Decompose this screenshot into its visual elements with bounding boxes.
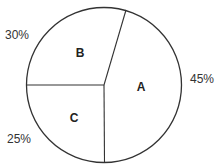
pct-label-a: 45%	[190, 72, 214, 86]
slice-label-c: C	[70, 111, 79, 125]
pct-label-b: 30%	[5, 28, 29, 42]
slice-label-a: A	[137, 80, 146, 94]
pct-label-c: 25%	[7, 132, 31, 146]
divider-c-a	[104, 85, 105, 163]
pie-chart: B A C 30% 45% 25%	[0, 0, 220, 165]
slice-label-b: B	[76, 46, 85, 60]
